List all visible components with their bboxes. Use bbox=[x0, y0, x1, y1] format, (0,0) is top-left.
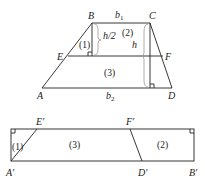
vertex-fprime-label: F′ bbox=[125, 116, 135, 127]
region-1-label: (1) bbox=[79, 40, 90, 51]
vertex-a-label: A bbox=[36, 90, 44, 101]
rect-region-2-label: (2) bbox=[157, 140, 168, 151]
full-height-brace bbox=[141, 24, 148, 87]
vertex-d-label: D bbox=[167, 90, 176, 101]
vertex-aprime-label: A′ bbox=[5, 167, 15, 178]
right-angle-mark-4 bbox=[190, 129, 194, 133]
cut-line-fd bbox=[130, 129, 142, 161]
vertex-b-label: B bbox=[88, 10, 94, 21]
height-label: h bbox=[132, 39, 137, 50]
vertex-dprime-label: D′ bbox=[137, 167, 148, 178]
rect-region-1-label: (1) bbox=[12, 142, 23, 153]
right-angle-mark-1 bbox=[88, 52, 92, 56]
vertex-f-label: F bbox=[164, 51, 172, 62]
base-b1-label: b1 bbox=[115, 9, 124, 22]
rect-region-3-label: (3) bbox=[69, 140, 80, 151]
trapezoid-dissection-diagram: B C A D E F b1 b2 h/2 h (1) (2) (3) A′ E… bbox=[0, 0, 205, 185]
region-2-label: (2) bbox=[122, 28, 133, 39]
vertex-c-label: C bbox=[149, 10, 156, 21]
right-angle-mark-2 bbox=[150, 84, 154, 88]
half-height-label: h/2 bbox=[103, 30, 116, 41]
right-angle-mark-3 bbox=[11, 129, 15, 133]
vertex-e-label: E bbox=[56, 51, 63, 62]
region-3-label: (3) bbox=[104, 68, 115, 79]
half-height-brace bbox=[94, 24, 101, 55]
vertex-eprime-label: E′ bbox=[35, 116, 45, 127]
vertex-bprime-label: B′ bbox=[189, 167, 198, 178]
base-b2-label: b2 bbox=[106, 90, 115, 103]
